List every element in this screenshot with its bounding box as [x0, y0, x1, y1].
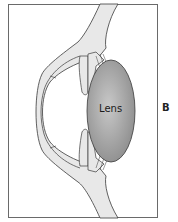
iris-lower	[79, 129, 88, 166]
iris-upper	[79, 56, 88, 95]
panel-label: B	[162, 102, 170, 113]
eye-anterior-segment-diagram	[0, 0, 178, 222]
lens-label: Lens	[99, 103, 122, 114]
